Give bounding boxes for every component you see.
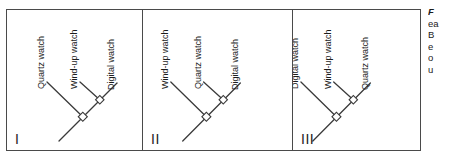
cladogram-panel-2[interactable]: Wind-up watch Quartz watch Digital watch… (142, 10, 292, 150)
tip-label-2-2: Quartz watch (194, 36, 203, 89)
root-stem (313, 117, 337, 141)
figure-root: Quartz watch Wind-up watch Digital watch… (0, 0, 451, 158)
branch-tip-2 (204, 82, 224, 100)
caption-line-3: e (428, 41, 451, 53)
cladogram-panel-3[interactable]: Digital watch Wind-up watch Quartz watch… (292, 10, 420, 150)
caption-line-5: u (428, 64, 451, 76)
tip-label-2-3: Digital watch (231, 39, 240, 90)
panel-numeral-3: III (301, 132, 314, 146)
root-stem (183, 117, 207, 141)
tip-label-1-2: Wind-up watch (70, 29, 79, 89)
tip-label-2-1: Wind-up watch (161, 29, 170, 89)
branch-tip-2 (334, 82, 354, 100)
caption-lead: F (428, 6, 451, 18)
panel-numeral-1: I (15, 132, 19, 146)
panel-row: Quartz watch Wind-up watch Digital watch… (6, 9, 421, 151)
caption-line-2: B (428, 29, 451, 41)
caption-line-1: ea (428, 18, 451, 30)
root-stem (59, 117, 83, 141)
cladogram-tree-3 (293, 10, 420, 150)
panel-numeral-2: II (151, 132, 160, 146)
tip-label-3-1: Digital watch (292, 38, 300, 89)
tip-label-3-2: Wind-up watch (324, 29, 333, 89)
figure-caption: F ea B e o u (428, 6, 451, 75)
branch-tip-2 (80, 82, 100, 100)
tip-label-3-3: Quartz watch (361, 37, 370, 90)
tip-label-1-3: Digital watch (107, 39, 116, 90)
tip-label-1-1: Quartz watch (37, 36, 46, 89)
cladogram-panel-1[interactable]: Quartz watch Wind-up watch Digital watch… (7, 10, 142, 150)
caption-line-4: o (428, 52, 451, 64)
